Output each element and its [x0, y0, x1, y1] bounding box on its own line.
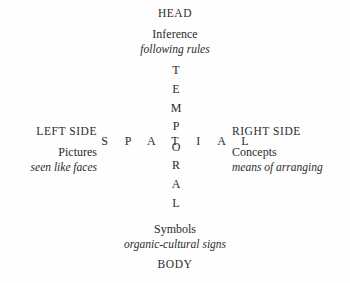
pole-bottom-noun: Symbols	[0, 222, 350, 237]
pole-right-gloss: means of arranging	[232, 160, 350, 174]
pole-bottom-body: Symbols organic-cultural signs BODY	[0, 222, 350, 271]
temporal-letter: L	[2, 194, 350, 213]
axis-diagram: HEAD Inference following rules T E M P O…	[0, 0, 350, 283]
pole-left-side: LEFT SIDE Pictures seen like faces	[0, 124, 97, 174]
pole-top-head: HEAD Inference following rules	[0, 6, 350, 56]
pole-top-gloss: following rules	[0, 42, 350, 56]
spatial-letter: P	[118, 134, 138, 149]
pole-right-noun: Concepts	[232, 145, 350, 160]
spatial-letter: T	[165, 134, 185, 149]
pole-right-label: RIGHT SIDE	[232, 124, 350, 138]
temporal-letter: M	[2, 99, 350, 118]
pole-top-noun: Inference	[0, 27, 350, 42]
temporal-letter: T	[2, 61, 350, 80]
spatial-letter: A	[142, 134, 162, 149]
pole-top-label: HEAD	[0, 6, 350, 20]
spatial-letter: I	[188, 134, 208, 149]
spatial-letter: S	[95, 134, 115, 149]
temporal-letter: E	[2, 80, 350, 99]
temporal-letter: A	[2, 175, 350, 194]
pole-bottom-label: BODY	[0, 257, 350, 271]
pole-right-side: RIGHT SIDE Concepts means of arranging	[232, 124, 350, 174]
spatial-letter: A	[212, 134, 232, 149]
pole-left-gloss: seen like faces	[0, 160, 97, 174]
pole-bottom-gloss: organic-cultural signs	[0, 237, 350, 251]
